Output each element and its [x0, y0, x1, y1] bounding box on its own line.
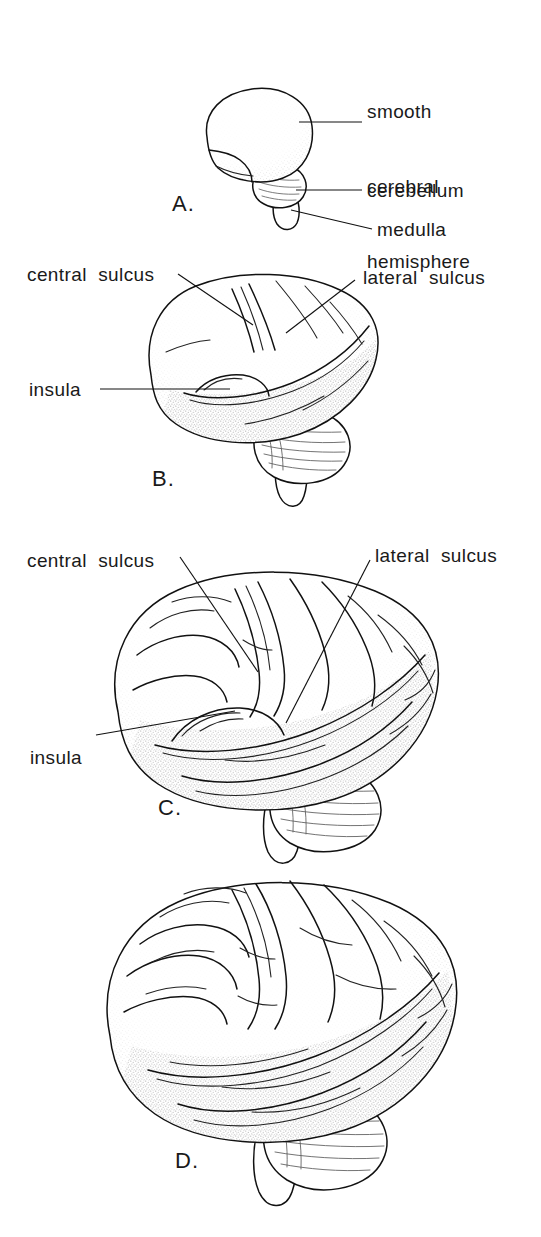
panel-letter-d: D.	[175, 1148, 199, 1174]
leader-lateral-sulcus-b	[286, 280, 355, 333]
panel-d-artwork	[92, 865, 472, 1206]
label-cerebellum: cerebellum	[367, 178, 464, 203]
label-central-sulcus-b: central sulcus	[27, 262, 154, 287]
label-medulla: medulla	[377, 217, 446, 242]
brain-development-figure: smooth cerebral hemisphere cerebellum me…	[0, 0, 541, 1237]
label-lateral-sulcus-b: lateral sulcus	[363, 265, 485, 290]
leader-medulla	[291, 210, 372, 229]
panel-c-artwork	[96, 555, 455, 863]
label-central-sulcus-c: central sulcus	[27, 548, 154, 573]
label-line-smooth: smooth	[367, 99, 470, 124]
leader-insula-c	[96, 711, 235, 735]
panel-letter-c: C.	[158, 795, 182, 821]
lateral-sulcus-c	[155, 655, 425, 751]
label-insula-b: insula	[29, 377, 81, 402]
panel-letter-a: A.	[172, 191, 195, 217]
panel-letter-b: B.	[152, 466, 175, 492]
central-sulcus-c	[235, 589, 260, 717]
panel-b-artwork	[100, 260, 400, 506]
label-insula-c: insula	[30, 745, 82, 770]
label-lateral-sulcus-c: lateral sulcus	[375, 543, 497, 568]
lateral-sulcus-b	[184, 326, 369, 398]
leader-central-sulcus-b	[178, 274, 253, 325]
leader-central-sulcus-c	[180, 557, 258, 672]
panel-a-artwork	[195, 80, 372, 230]
leader-lateral-sulcus-c	[286, 560, 370, 723]
central-sulcus-b	[232, 289, 254, 352]
